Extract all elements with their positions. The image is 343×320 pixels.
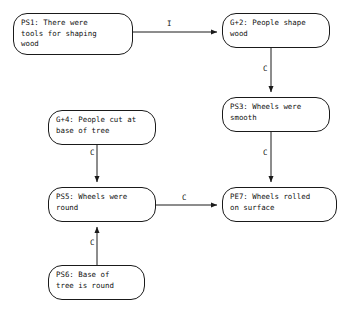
- node-g4[interactable]: G+4: People cut at base of tree: [48, 110, 156, 145]
- node-ps3[interactable]: PS3: Wheels were smooth: [222, 97, 330, 132]
- edge-label-ps1-g2: I: [167, 19, 171, 28]
- edge-label-ps6-ps5: C: [90, 238, 94, 247]
- node-pe7[interactable]: PE7: Wheels rolled on surface: [222, 187, 337, 222]
- node-g2[interactable]: G+2: People shape wood: [222, 13, 330, 48]
- edge-label-ps3-pe7: C: [263, 148, 267, 157]
- node-ps6[interactable]: PS6: Base of tree is round: [48, 265, 145, 300]
- node-ps1[interactable]: PS1: There were tools for shaping wood: [13, 13, 133, 55]
- node-ps5[interactable]: PS5: Wheels were round: [48, 187, 156, 222]
- edge-label-ps5-pe7: C: [182, 193, 186, 202]
- edge-label-g2-ps3: C: [263, 64, 267, 73]
- edge-label-g4-ps5: C: [90, 148, 94, 157]
- diagram-canvas: PS1: There were tools for shaping wood G…: [0, 0, 343, 320]
